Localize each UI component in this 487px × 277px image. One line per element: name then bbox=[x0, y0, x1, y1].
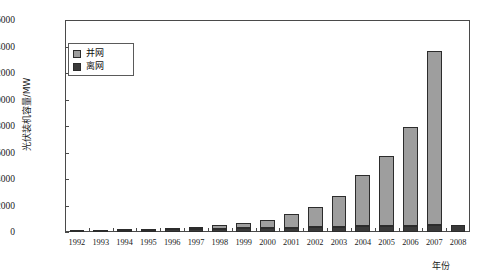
x-axis-tick-label: 1997 bbox=[188, 238, 205, 247]
y-axis-tick-label: 2000 bbox=[0, 201, 15, 211]
x-axis-tick-label: 2005 bbox=[378, 238, 395, 247]
y-axis-tick-label: 16000 bbox=[0, 15, 15, 25]
bar-segment-grid-connected bbox=[308, 207, 323, 228]
bar-segment-grid-connected bbox=[284, 214, 299, 227]
x-axis-tick-mark bbox=[136, 228, 137, 232]
y-axis-tick-mark bbox=[65, 100, 69, 101]
x-axis-tick-label: 1999 bbox=[235, 238, 252, 247]
x-axis-tick-label: 2006 bbox=[402, 238, 419, 247]
bar-1994 bbox=[117, 229, 132, 232]
legend-swatch-off-grid bbox=[73, 63, 81, 71]
bar-2003 bbox=[332, 196, 347, 232]
y-axis-tick-mark bbox=[65, 232, 69, 233]
y-axis-tick-label: 0 bbox=[0, 227, 15, 237]
x-axis-tick-mark bbox=[327, 228, 328, 232]
bar-2000 bbox=[260, 220, 275, 232]
x-axis-tick-label: 1994 bbox=[116, 238, 133, 247]
y-axis-tick-label: 4000 bbox=[0, 174, 15, 184]
bar-segment-off-grid bbox=[451, 225, 466, 232]
legend-label-off-grid: 离网 bbox=[86, 62, 104, 71]
bar-segment-off-grid bbox=[93, 230, 108, 232]
x-axis-tick-mark bbox=[184, 228, 185, 232]
bar-1993 bbox=[93, 230, 108, 232]
bar-segment-off-grid bbox=[379, 226, 394, 232]
bar-1996 bbox=[165, 228, 180, 232]
bar-segment-off-grid bbox=[117, 230, 132, 232]
x-axis-tick-mark bbox=[113, 228, 114, 232]
x-axis-tick-label: 2004 bbox=[354, 238, 371, 247]
bar-segment-grid-connected bbox=[355, 175, 370, 226]
bar-segment-off-grid bbox=[165, 229, 180, 232]
y-axis-tick-mark bbox=[65, 153, 69, 154]
y-axis-tick-label: 6000 bbox=[0, 148, 15, 158]
x-axis-title: 年份 bbox=[432, 259, 450, 272]
x-axis-tick-label: 2001 bbox=[283, 238, 300, 247]
y-axis-tick-label: 8000 bbox=[0, 121, 15, 131]
bar-2008 bbox=[451, 225, 466, 232]
bar-1992 bbox=[70, 230, 85, 232]
bar-segment-off-grid bbox=[332, 227, 347, 232]
legend-label-grid-connected: 并网 bbox=[86, 49, 104, 58]
bar-2004 bbox=[355, 175, 370, 232]
bar-segment-off-grid bbox=[260, 228, 275, 232]
bar-segment-grid-connected bbox=[379, 156, 394, 226]
x-axis-tick-label: 1996 bbox=[164, 238, 181, 247]
bar-segment-off-grid bbox=[236, 228, 251, 232]
x-axis-tick-label: 2008 bbox=[450, 238, 467, 247]
x-axis-tick-mark bbox=[446, 228, 447, 232]
bar-segment-grid-connected bbox=[260, 220, 275, 228]
bar-1998 bbox=[212, 225, 227, 232]
bar-2001 bbox=[284, 214, 299, 232]
x-axis-tick-label: 1998 bbox=[212, 238, 229, 247]
x-axis-tick-mark bbox=[399, 228, 400, 232]
y-axis-tick-mark bbox=[65, 20, 69, 21]
bar-segment-grid-connected bbox=[427, 51, 442, 226]
legend-item-off-grid: 离网 bbox=[73, 60, 129, 73]
x-axis-tick-label: 2003 bbox=[331, 238, 348, 247]
x-axis-tick-label: 1993 bbox=[92, 238, 109, 247]
x-axis-tick-mark bbox=[208, 228, 209, 232]
x-axis-tick-label: 2000 bbox=[259, 238, 276, 247]
bar-1997 bbox=[189, 227, 204, 232]
photovoltaic-capacity-bar-chart: 光伏装机容量/MW 020004000600080001000012000140… bbox=[0, 0, 487, 277]
bar-1995 bbox=[141, 229, 156, 232]
x-axis-tick-mark bbox=[375, 228, 376, 232]
y-axis-tick-label: 12000 bbox=[0, 68, 15, 78]
bar-segment-grid-connected bbox=[403, 127, 418, 226]
y-axis-tick-mark bbox=[65, 206, 69, 207]
x-axis-tick-mark bbox=[256, 228, 257, 232]
bar-segment-off-grid bbox=[284, 228, 299, 232]
x-axis-tick-label: 1992 bbox=[69, 238, 86, 247]
x-axis-tick-mark bbox=[89, 228, 90, 232]
bar-2006 bbox=[403, 127, 418, 232]
bar-segment-off-grid bbox=[141, 230, 156, 232]
y-axis-tick-mark bbox=[65, 179, 69, 180]
y-axis-tick-label: 10000 bbox=[0, 95, 15, 105]
bar-segment-grid-connected bbox=[332, 196, 347, 226]
legend-item-grid-connected: 并网 bbox=[73, 47, 129, 60]
chart-legend: 并网 离网 bbox=[68, 43, 134, 76]
bar-2005 bbox=[379, 156, 394, 232]
x-axis-tick-mark bbox=[279, 228, 280, 232]
bar-segment-off-grid bbox=[403, 226, 418, 232]
bar-1999 bbox=[236, 223, 251, 232]
x-axis-tick-label: 2007 bbox=[426, 238, 443, 247]
bar-segment-off-grid bbox=[212, 229, 227, 232]
x-axis-tick-label: 1995 bbox=[140, 238, 157, 247]
bar-2002 bbox=[308, 207, 323, 232]
x-axis-tick-mark bbox=[232, 228, 233, 232]
y-axis-tick-mark bbox=[65, 126, 69, 127]
legend-swatch-grid-connected bbox=[73, 50, 81, 58]
bar-segment-off-grid bbox=[427, 225, 442, 231]
x-axis-tick-mark bbox=[422, 228, 423, 232]
y-axis-tick-label: 14000 bbox=[0, 42, 15, 52]
y-axis-title: 光伏装机容量/MW bbox=[20, 45, 33, 185]
x-axis-tick-mark bbox=[303, 228, 304, 232]
x-axis-tick-mark bbox=[160, 228, 161, 232]
bar-segment-off-grid bbox=[308, 227, 323, 232]
bar-segment-off-grid bbox=[355, 226, 370, 232]
x-axis-tick-mark bbox=[351, 228, 352, 232]
bar-segment-off-grid bbox=[189, 229, 204, 232]
bar-segment-off-grid bbox=[70, 230, 85, 232]
bar-2007 bbox=[427, 51, 442, 232]
